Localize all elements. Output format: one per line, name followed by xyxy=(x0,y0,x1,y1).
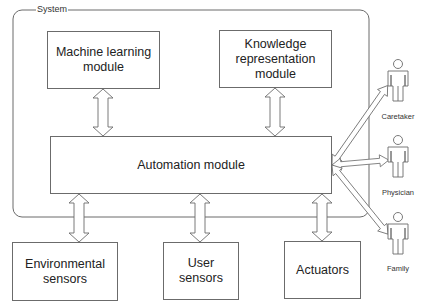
knowledge-representation-module: Knowledge representation module xyxy=(219,30,332,88)
family-label: Family xyxy=(373,264,423,273)
machine-learning-module: Machine learning module xyxy=(47,31,160,89)
family-actor-icon xyxy=(388,213,408,255)
automation-family-arrow xyxy=(327,161,392,238)
automation-env-arrow xyxy=(69,194,89,242)
user-sensors: User sensors xyxy=(163,242,239,300)
automation-module: Automation module xyxy=(50,136,332,194)
physician-label: Physician xyxy=(373,188,423,197)
physician-actor-icon xyxy=(388,136,408,178)
kr-automation-arrow xyxy=(265,88,285,136)
environmental-sensors: Environmental sensors xyxy=(12,242,118,301)
system-label: System xyxy=(36,4,68,14)
ml-automation-arrow xyxy=(93,89,113,136)
automation-caretaker-arrow xyxy=(327,82,392,168)
automation-user-arrow xyxy=(190,194,210,242)
actuators: Actuators xyxy=(284,241,361,299)
caretaker-label: Caretaker xyxy=(373,112,423,121)
caretaker-actor-icon xyxy=(388,60,408,102)
